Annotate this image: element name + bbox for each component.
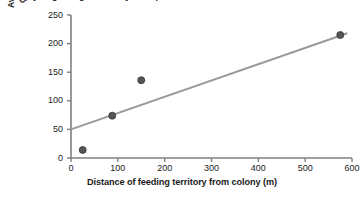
y-tick-label: 0 <box>37 154 63 163</box>
y-tick-label: 250 <box>37 11 63 20</box>
y-tick-label: 100 <box>37 96 63 105</box>
x-tick-label: 200 <box>151 164 179 173</box>
x-tick-label: 600 <box>338 164 364 173</box>
y-tick-label: 200 <box>37 39 63 48</box>
x-tick-label: 500 <box>291 164 319 173</box>
y-tick-label: 150 <box>37 68 63 77</box>
data-points <box>79 32 344 154</box>
y-tick-label: 50 <box>37 125 63 134</box>
data-point <box>109 112 116 119</box>
data-point <box>337 32 344 39</box>
x-tick-label: 400 <box>244 164 272 173</box>
data-point <box>138 77 145 84</box>
data-point <box>79 146 86 153</box>
x-tick-label: 300 <box>198 164 226 173</box>
scatter-chart-figure: apply to gaining a territory for a pair … <box>0 0 364 197</box>
x-tick-label: 100 <box>104 164 132 173</box>
x-tick-label: 0 <box>57 164 85 173</box>
axes <box>71 15 352 158</box>
